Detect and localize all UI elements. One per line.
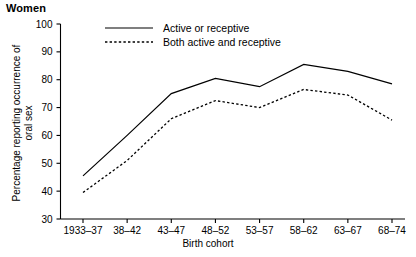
x-tick-label: 1933–37 [64, 225, 103, 236]
x-tick-label: 43–47 [157, 225, 185, 236]
y-tick-label: 40 [41, 186, 53, 197]
x-axis-label: Birth cohort [0, 238, 416, 249]
y-axis-ticks: 30405060708090100 [36, 19, 61, 225]
y-tick-label: 70 [41, 102, 53, 113]
x-axis-ticks: 1933–3738–4243–4748–5253–5758–6263–6768–… [64, 219, 407, 236]
x-tick-label: 38–42 [113, 225, 141, 236]
y-tick-label: 50 [41, 158, 53, 169]
y-tick-label: 60 [41, 130, 53, 141]
x-tick-label: 48–52 [202, 225, 230, 236]
x-tick-label: 53–57 [246, 225, 274, 236]
y-tick-label: 90 [41, 46, 53, 57]
plot-area: 30405060708090100 1933–3738–4243–4748–52… [0, 0, 416, 257]
y-tick-label: 100 [36, 19, 53, 30]
chart-figure: Women Percentage reporting occurrence of… [0, 0, 416, 257]
chart-legend: Active or receptiveBoth active and recep… [105, 22, 281, 48]
x-tick-label: 68–74 [378, 225, 406, 236]
x-tick-label: 63–67 [334, 225, 362, 236]
series-line-both-active-and-receptive [83, 89, 392, 192]
y-tick-label: 80 [41, 74, 53, 85]
legend-label: Active or receptive [163, 22, 250, 34]
legend-label: Both active and receptive [163, 36, 281, 48]
y-tick-label: 30 [41, 214, 53, 225]
x-tick-label: 58–62 [290, 225, 318, 236]
